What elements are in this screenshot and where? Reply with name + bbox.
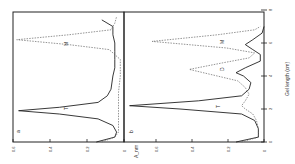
panel-a-abs-tick-label: 0.6 (11, 146, 16, 152)
curves-layer (17, 17, 264, 142)
ticks-layer: 0.60.40.200.60.40.2002468 (11, 8, 274, 152)
panel-b-abs-tick-label: 0.2 (226, 146, 231, 152)
gel-tick-label: 8 (268, 8, 273, 11)
peak-label-m-b: M (219, 40, 225, 44)
panel-a-abs-tick-label: 0 (122, 149, 127, 152)
panel-b-abs-tick-label: 0 (262, 149, 267, 152)
peak-label-m-a: M (63, 42, 69, 46)
gel-tick-label: 0 (268, 140, 273, 143)
gel-tick-label: 6 (268, 41, 273, 44)
gel-axis-title: Gel length (cm) (284, 61, 290, 96)
curve-b-dashed (152, 27, 260, 143)
panel-b-abs-tick-label: 0.6 (154, 146, 159, 152)
gel-tick-label: 4 (268, 74, 273, 77)
gel-tick-label: 2 (268, 107, 273, 110)
peak-label-t-a: T (63, 107, 69, 110)
panel-a-abs-tick-label: 0.2 (85, 146, 90, 152)
panel-a-label: a (15, 130, 21, 133)
panel-b-abs-tick-label: 0.4 (190, 146, 195, 152)
chart: 0.60.40.200.60.40.2002468 a b T M T D M … (0, 0, 295, 164)
peak-label-d-b: D (219, 67, 225, 71)
curve-b-solid (130, 27, 264, 143)
curve-a-dashed (17, 17, 121, 142)
peak-label-t-b: T (215, 105, 221, 108)
panel-a-frame (13, 12, 124, 142)
panel-a-abs-tick-label: 0.4 (48, 146, 53, 152)
absorbance-axis-title: A_nm (133, 145, 139, 158)
panel-b-label: b (128, 130, 134, 133)
